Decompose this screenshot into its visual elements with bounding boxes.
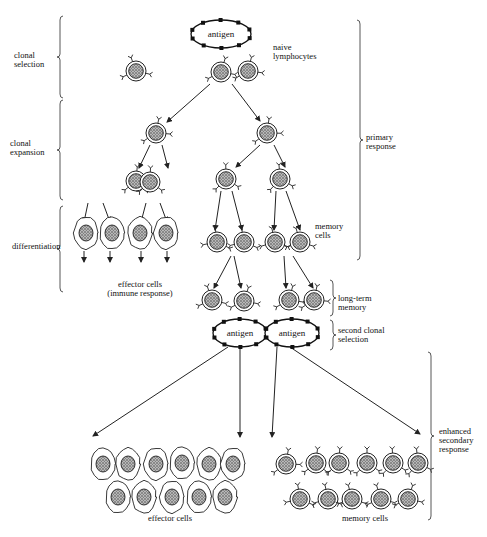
lymphocyte [141,116,173,144]
svg-text:antigen: antigen [227,328,254,338]
brace [330,280,336,316]
lymphocyte [136,165,165,194]
arrow [139,145,150,168]
arrow [93,347,228,436]
lymphocyte [380,446,409,476]
antigen: antigen [190,18,251,50]
lymphocyte [273,283,305,310]
effector-cell [143,449,168,481]
braces [57,16,434,520]
effector-cell [220,449,245,481]
lymphocyte [325,446,354,475]
memory-cells-top-label: memory cells [315,222,343,240]
effector-cell [73,218,98,250]
lymphocyte [283,482,316,509]
enhanced-secondary-response-label: enhanced secondary response [439,427,473,454]
lymphocyte [311,482,344,509]
brace [57,100,63,200]
effector-cell [100,217,124,249]
lymphocyte [196,284,229,310]
effector-cell [187,481,211,513]
long-term-memory-label: long-term memory [338,294,372,312]
effector-cell [213,480,238,513]
arrow [236,145,260,167]
lymphocyte [267,162,296,193]
antigen: antigen [264,317,320,349]
effector-cells-bottom-label: effector cells [135,514,205,523]
brace [357,20,363,260]
arrow [234,256,241,288]
antigen: antigen [212,317,268,349]
lymphocyte [200,225,233,252]
lymphocyte [353,447,382,477]
lymphocyte [213,162,242,192]
effector-cell [170,447,194,479]
brace [57,16,63,98]
arrow [215,191,221,230]
svg-text:antigen: antigen [208,29,235,39]
brace [428,352,434,520]
lymphocyte [336,482,369,509]
lymphocyte [120,55,153,81]
lymphocyte [365,483,398,509]
brace [330,320,336,350]
second-clonal-selection-label: second clonal selection [338,326,385,344]
lymphocyte [228,285,261,311]
lymphocyte [232,54,264,81]
effector-cell [116,447,141,480]
arrow [290,347,420,434]
arrow [214,256,231,288]
naive-lymphocytes-label: naive lymphocytes [273,43,316,61]
effector-cell [132,480,157,513]
lymphocyte [405,446,433,477]
lymphocyte [392,483,425,509]
clonal-selection-label: clonal selection [14,51,44,69]
effector-cell [128,216,153,249]
effector-cell [197,447,222,480]
effector-cell [159,482,184,514]
lymphocyte [271,447,303,475]
arrow [272,347,277,437]
effector-cells [73,216,245,513]
effector-cells-immune-label: effector cells (immune response) [90,280,190,298]
arrow [167,84,210,122]
lymphocyte [301,446,330,475]
lymphocyte [205,55,238,82]
lymphocyte [252,116,283,144]
arrow [162,145,168,168]
clonal-selection-diagram: antigenantigenantigen [0,0,487,537]
arrow [274,145,285,167]
effector-cell [106,481,130,513]
clonal-expansion-label: clonal expansion [10,139,44,157]
differentiation-label: differentiation [12,242,60,251]
effector-cell [153,218,178,250]
arrow [232,84,260,121]
arrow [274,191,276,230]
arrow [284,256,286,288]
arrow [286,191,300,230]
effector-cell [91,448,115,480]
arrow [232,191,242,230]
primary-response-label: primary response [366,133,396,151]
arrow [293,256,313,288]
lymphocyte [227,225,260,252]
svg-text:antigen: antigen [279,328,306,338]
lymphocyte [299,283,331,311]
memory-cells-bottom-label: memory cells [330,514,400,523]
